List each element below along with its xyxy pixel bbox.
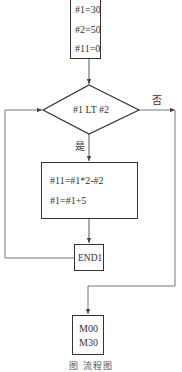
process-box: #11=#1*2-#2 #1=#1+5: [41, 162, 138, 219]
end-line-2: M30: [79, 337, 98, 349]
end-box: M00 M30: [72, 315, 104, 355]
end1-label: END1: [78, 252, 102, 264]
decision-condition: #1 LT #2: [73, 104, 109, 116]
init-line-2: #2=50: [75, 24, 101, 36]
figure-caption: 图 流程图: [0, 359, 182, 372]
end-line-1: M00: [79, 323, 98, 335]
init-line-1: #1=30: [75, 4, 101, 16]
process-line-1: #11=#1*2-#2: [50, 175, 104, 187]
end1-box: END1: [74, 244, 104, 271]
init-line-3: #11=0: [75, 43, 100, 55]
init-box: #1=30 #2=50 #11=0: [70, 0, 101, 59]
process-line-2: #1=#1+5: [50, 195, 86, 207]
yes-label: 是: [75, 141, 85, 153]
no-label: 否: [152, 95, 162, 107]
